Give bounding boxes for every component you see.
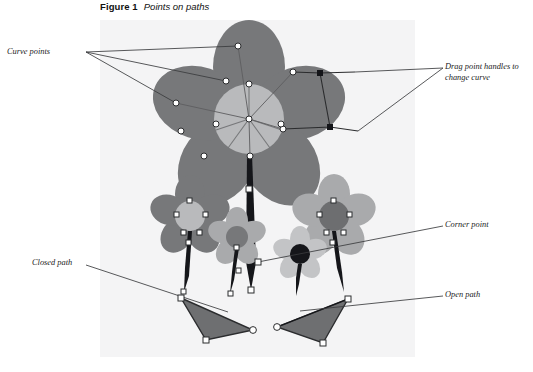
anchor-point[interactable] xyxy=(181,230,186,235)
path-anchor-point[interactable] xyxy=(203,337,209,343)
annotation-open-path: Open path xyxy=(445,290,480,301)
anchor-point[interactable] xyxy=(181,289,186,294)
curve-point[interactable] xyxy=(246,116,252,122)
anchor-point[interactable] xyxy=(347,212,352,217)
anchor-point[interactable] xyxy=(330,240,335,245)
anchor-point[interactable] xyxy=(341,230,346,235)
curve-point[interactable] xyxy=(246,81,252,87)
annotation-corner-point: Corner point xyxy=(445,220,489,231)
path-anchor-point[interactable] xyxy=(345,296,351,302)
curve-point[interactable] xyxy=(223,78,229,84)
curve-point[interactable] xyxy=(178,128,184,134)
path-anchor-point[interactable] xyxy=(320,340,326,346)
curve-point[interactable] xyxy=(173,100,179,106)
anchor-point[interactable] xyxy=(187,198,192,203)
anchor-point[interactable] xyxy=(186,240,191,245)
figure-artwork xyxy=(0,0,533,372)
anchor-point[interactable] xyxy=(331,198,336,203)
path-anchor-point[interactable] xyxy=(250,327,257,334)
curve-point[interactable] xyxy=(278,121,284,127)
curve-point[interactable] xyxy=(290,69,296,75)
anchor-point[interactable] xyxy=(236,268,241,273)
figure-stage: Figure 1Points on paths xyxy=(0,0,533,372)
anchor-point[interactable] xyxy=(174,212,179,217)
path-anchor-point[interactable] xyxy=(274,324,281,331)
path-anchor-point[interactable] xyxy=(178,295,184,301)
anchor-point[interactable] xyxy=(317,212,322,217)
anchor-point[interactable] xyxy=(228,291,233,296)
mid-right-center xyxy=(319,201,349,231)
curve-point[interactable] xyxy=(213,121,219,127)
anchor-point[interactable] xyxy=(324,230,329,235)
annotation-drag-handles: Drag point handles to change curve xyxy=(445,62,531,83)
corner-point[interactable] xyxy=(248,287,254,293)
curve-point[interactable] xyxy=(201,153,207,159)
corner-point[interactable] xyxy=(255,259,261,265)
anchor-point[interactable] xyxy=(197,230,202,235)
corner-point[interactable] xyxy=(246,186,252,192)
curve-point[interactable] xyxy=(247,153,253,159)
annotation-closed-path: Closed path xyxy=(32,258,72,269)
curve-point[interactable] xyxy=(235,43,241,49)
anchor-point[interactable] xyxy=(234,245,239,250)
annotation-curve-points: Curve points xyxy=(7,47,50,58)
anchor-point[interactable] xyxy=(203,212,208,217)
